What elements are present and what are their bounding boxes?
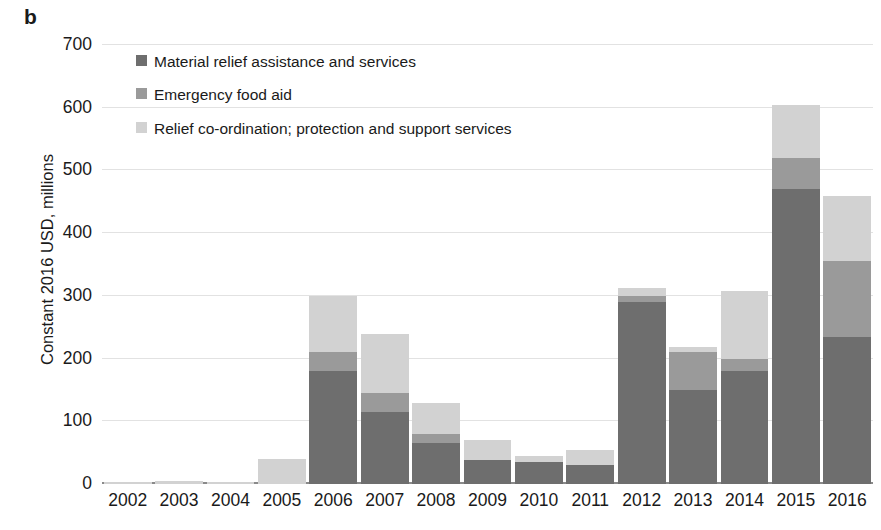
bar-segment[interactable] [823, 196, 871, 262]
chart-legend: Material relief assistance and servicesE… [136, 52, 556, 152]
y-tick-label-600: 600 [6, 99, 92, 117]
y-tick-label-200: 200 [6, 350, 92, 368]
x-tick-label-2005: 2005 [256, 492, 307, 510]
legend-item-label: Material relief assistance and services [154, 52, 416, 71]
bar-segment[interactable] [618, 296, 666, 302]
bar-segment[interactable] [258, 459, 306, 484]
y-tick-label-100: 100 [6, 412, 92, 430]
legend-item[interactable]: Material relief assistance and services [136, 52, 556, 71]
x-tick-label-2006: 2006 [308, 492, 359, 510]
bar-segment[interactable] [669, 352, 717, 390]
bar-segment[interactable] [412, 443, 460, 484]
x-tick-label-2013: 2013 [667, 492, 718, 510]
bar-segment[interactable] [566, 450, 614, 466]
bar-segment[interactable] [361, 412, 409, 484]
bar-segment[interactable] [669, 347, 717, 352]
bar-group-2011[interactable] [566, 45, 614, 484]
legend-item[interactable]: Relief co-ordination; protection and sup… [136, 119, 556, 138]
bar-segment[interactable] [412, 403, 460, 434]
bar-segment[interactable] [669, 390, 717, 484]
bar-group-2015[interactable] [772, 45, 820, 484]
x-tick-label-2004: 2004 [205, 492, 256, 510]
bar-segment[interactable] [772, 189, 820, 484]
x-tick-label-2007: 2007 [359, 492, 410, 510]
bar-segment[interactable] [361, 393, 409, 412]
y-tick-label-300: 300 [6, 287, 92, 305]
x-tick-label-2008: 2008 [410, 492, 461, 510]
x-tick-label-2012: 2012 [616, 492, 667, 510]
y-tick-label-400: 400 [6, 224, 92, 242]
x-tick-label-2014: 2014 [719, 492, 770, 510]
bar-segment[interactable] [309, 352, 357, 371]
x-tick-label-2016: 2016 [822, 492, 873, 510]
bar-segment[interactable] [412, 434, 460, 443]
bar-group-2016[interactable] [823, 45, 871, 484]
legend-swatch-material-relief [136, 55, 147, 66]
bar-segment[interactable] [721, 359, 769, 372]
y-axis-title: Constant 2016 USD, millions [38, 105, 57, 415]
legend-item-label: Emergency food aid [154, 85, 292, 104]
bar-segment[interactable] [309, 371, 357, 484]
bar-group-2012[interactable] [618, 45, 666, 484]
legend-item-label: Relief co-ordination; protection and sup… [154, 119, 512, 138]
legend-swatch-emergency-food-aid [136, 88, 147, 99]
bar-segment[interactable] [155, 481, 203, 484]
bar-segment[interactable] [361, 334, 409, 394]
y-tick-label-500: 500 [6, 161, 92, 179]
x-tick-label-2015: 2015 [770, 492, 821, 510]
bar-segment[interactable] [772, 158, 820, 189]
bar-segment[interactable] [823, 337, 871, 484]
x-tick-label-2011: 2011 [565, 492, 616, 510]
bar-segment[interactable] [207, 482, 255, 484]
x-tick-label-2009: 2009 [462, 492, 513, 510]
bar-segment[interactable] [104, 482, 152, 484]
x-tick-label-2003: 2003 [153, 492, 204, 510]
y-tick-label-0: 0 [6, 475, 92, 493]
bar-segment[interactable] [823, 261, 871, 336]
x-tick-label-2002: 2002 [102, 492, 153, 510]
bar-group-2014[interactable] [721, 45, 769, 484]
bar-segment[interactable] [618, 302, 666, 484]
bar-segment[interactable] [566, 465, 614, 484]
bar-segment[interactable] [721, 371, 769, 484]
y-tick-label-700: 700 [6, 36, 92, 54]
bar-segment[interactable] [464, 460, 512, 484]
bar-segment[interactable] [772, 105, 820, 158]
bar-segment[interactable] [515, 456, 563, 462]
x-tick-label-2010: 2010 [513, 492, 564, 510]
bar-segment[interactable] [309, 296, 357, 352]
bar-segment[interactable] [618, 288, 666, 296]
bar-segment[interactable] [464, 440, 512, 460]
legend-item[interactable]: Emergency food aid [136, 85, 556, 104]
chart-figure: b Constant 2016 USD, millions 0100200300… [0, 0, 881, 530]
bar-group-2013[interactable] [669, 45, 717, 484]
bar-segment[interactable] [721, 291, 769, 358]
legend-swatch-relief-coordination [136, 122, 147, 133]
panel-label: b [24, 6, 37, 27]
bar-segment[interactable] [515, 462, 563, 484]
